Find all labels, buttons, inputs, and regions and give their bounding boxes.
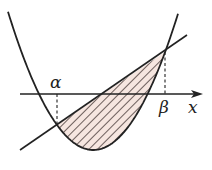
shaded-region — [57, 52, 165, 150]
beta-label: β — [158, 97, 169, 117]
x-axis-label: x — [188, 97, 198, 117]
alpha-label: α — [50, 72, 62, 92]
diagram-figure: α β x — [0, 0, 212, 170]
